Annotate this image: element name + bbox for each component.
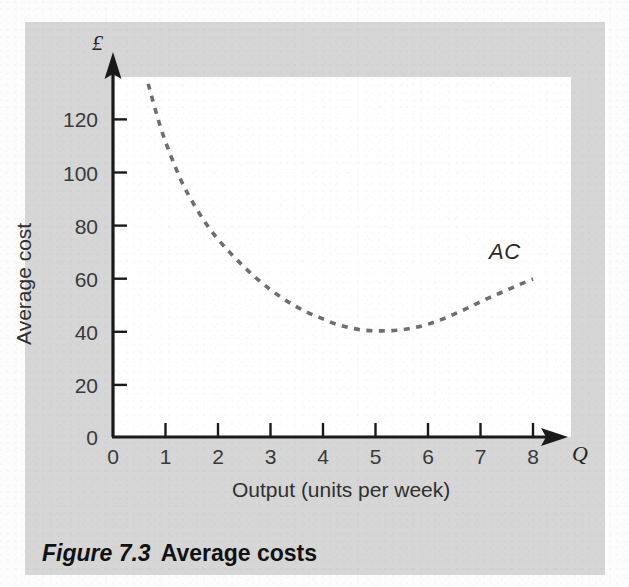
x-axis-title: Output (units per week): [232, 479, 450, 500]
y-tick-label-20: 20: [46, 374, 98, 395]
y-tick-label-0: 0: [46, 427, 98, 448]
y-tick-label-100: 100: [46, 162, 98, 183]
y-tick-label-60: 60: [46, 268, 98, 289]
y-axis-title: Average cost: [13, 223, 34, 345]
x-axis-quantity-symbol: Q: [572, 443, 588, 465]
x-tick-label-8: 8: [527, 446, 539, 467]
y-tick-label-120: 120: [46, 109, 98, 130]
figure-caption: Figure 7.3Average costs: [42, 540, 317, 567]
x-tick-label-4: 4: [317, 446, 329, 467]
y-axis-currency-symbol: £: [92, 32, 103, 54]
x-tick-label-1: 1: [160, 446, 172, 467]
figure-caption-number: Figure 7.3: [42, 540, 151, 566]
average-cost-curve: [148, 84, 533, 331]
series-label-ac: AC: [489, 241, 521, 263]
x-tick-label-6: 6: [422, 446, 434, 467]
x-tick-label-2: 2: [212, 446, 224, 467]
y-tick-label-40: 40: [46, 321, 98, 342]
figure-root: 0 20 40 60 80 100 120 0 1 2 3 4 5 6 7 8 …: [0, 0, 629, 587]
x-tick-label-5: 5: [370, 446, 382, 467]
x-tick-label-0: 0: [107, 446, 119, 467]
x-tick-label-3: 3: [265, 446, 277, 467]
y-tick-label-80: 80: [46, 215, 98, 236]
series-layer: [148, 84, 533, 331]
x-tick-label-7: 7: [475, 446, 487, 467]
figure-caption-title: Average costs: [161, 540, 317, 566]
